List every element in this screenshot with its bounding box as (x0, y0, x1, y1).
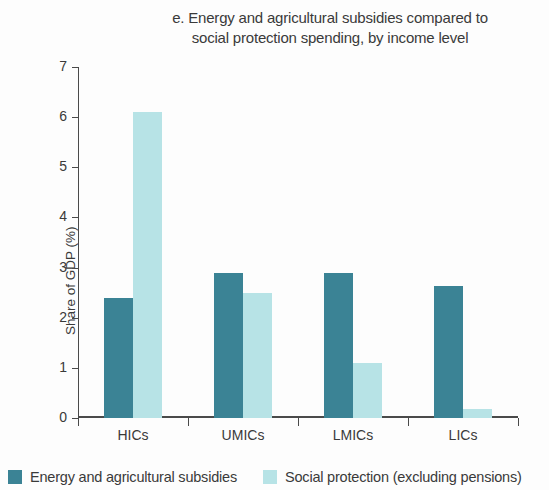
bar-lics-series-1 (434, 286, 463, 418)
bar-hics-series-2 (133, 112, 162, 418)
y-axis-tick: 2 (72, 318, 78, 319)
legend-swatch-2 (263, 470, 277, 484)
bar-lmics-series-2 (353, 363, 382, 418)
x-axis-label-hics: HICs (78, 427, 188, 443)
chart-legend: Energy and agricultural subsidiesSocial … (8, 466, 549, 488)
y-axis-tick-label: 4 (59, 208, 67, 224)
y-axis-tick: 3 (72, 268, 78, 269)
chart-title: e. Energy and agricultural subsidies com… (120, 8, 540, 48)
legend-label-1: Energy and agricultural subsidies (30, 469, 237, 485)
legend-label-2: Social protection (excluding pensions) (285, 469, 522, 485)
x-axis-tick (78, 418, 79, 426)
chart-figure: e. Energy and agricultural subsidies com… (0, 0, 549, 490)
y-axis-tick-label: 5 (59, 158, 67, 174)
y-axis-line (78, 67, 79, 418)
bar-umics-series-1 (214, 273, 243, 418)
legend-entry-2: Social protection (excluding pensions) (263, 469, 522, 485)
legend-swatch-1 (8, 470, 22, 484)
bar-lics-series-2 (463, 409, 492, 418)
y-axis-tick: 5 (72, 167, 78, 168)
y-axis-tick: 7 (72, 67, 78, 68)
x-axis-label-lmics: LMICs (298, 427, 408, 443)
bar-hics-series-1 (104, 298, 133, 418)
y-axis-tick: 6 (72, 117, 78, 118)
y-axis-tick-label: 1 (59, 359, 67, 375)
x-axis-tick (518, 418, 519, 426)
bar-lmics-series-1 (324, 273, 353, 418)
y-axis-tick: 1 (72, 368, 78, 369)
bar-umics-series-2 (243, 293, 272, 418)
y-axis-tick: 4 (72, 217, 78, 218)
y-axis-tick-label: 0 (59, 409, 67, 425)
y-axis-tick-label: 6 (59, 108, 67, 124)
plot-area: Share of GDP (%) 01234567 HICsUMICsLMICs… (78, 67, 518, 418)
y-axis-tick-label: 3 (59, 259, 67, 275)
x-axis-label-lics: LICs (408, 427, 518, 443)
x-axis-tick (298, 418, 299, 426)
x-axis-label-umics: UMICs (188, 427, 298, 443)
y-axis-tick-label: 7 (59, 58, 67, 74)
x-axis-tick (188, 418, 189, 426)
x-axis-tick (408, 418, 409, 426)
legend-entry-1: Energy and agricultural subsidies (8, 469, 237, 485)
y-axis-tick-label: 2 (59, 309, 67, 325)
